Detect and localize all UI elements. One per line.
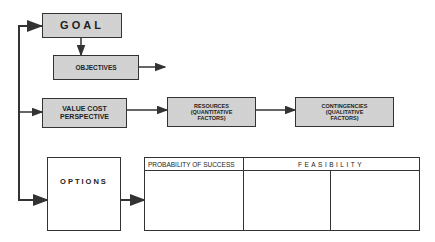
header-probability-label: PROBABILITY OF SUCCESS [148,161,235,168]
resources-box: RESOURCES (QUANTITATIVE FACTORS) [167,97,256,127]
header-probability: PROBABILITY OF SUCCESS [145,158,243,171]
options-box: OPTIONS [47,157,121,231]
goal-box: GOAL [42,13,122,38]
goal-label: GOAL [60,19,104,31]
value-cost-box: VALUE COST PERSPECTIVE [42,98,127,128]
header-feasibility: FEASIBILITY [243,158,419,171]
value-cost-label: VALUE COST PERSPECTIVE [57,105,112,120]
column-divider [330,171,331,230]
objectives-box: OBJECTIVES [53,55,139,80]
column-divider [243,158,244,230]
header-feasibility-label: FEASIBILITY [298,161,364,168]
evaluation-table: PROBABILITY OF SUCCESS FEASIBILITY [144,157,420,231]
resources-line3: FACTORS) [197,115,225,121]
contingencies-box: CONTINGENCIES (QUALITATIVE FACTORS) [295,97,394,127]
objectives-label: OBJECTIVES [75,64,116,71]
contingencies-line3: FACTORS) [330,115,358,121]
options-label: OPTIONS [60,178,108,186]
